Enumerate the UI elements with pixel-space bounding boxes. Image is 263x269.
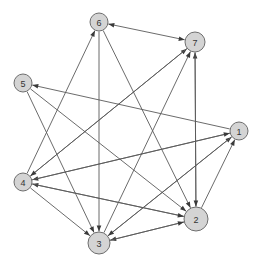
edge-4-to-2 <box>32 184 183 217</box>
arrowhead-to-7 <box>178 36 184 41</box>
edges-layer <box>27 23 235 241</box>
graph-node-1[interactable]: 1 <box>230 122 248 140</box>
edge-line <box>30 89 186 211</box>
arrowhead-to-1 <box>230 140 235 146</box>
edge-4-to-3 <box>30 188 90 236</box>
edge-6-to-2 <box>103 31 190 208</box>
arrowhead-to-2 <box>177 213 183 217</box>
arrowhead-to-2 <box>180 206 186 212</box>
edge-2-to-1 <box>201 140 234 208</box>
node-circle-5[interactable] <box>14 74 32 92</box>
arrowhead-to-7 <box>186 51 191 57</box>
arrowhead-to-6 <box>90 31 95 37</box>
edge-5-to-2 <box>30 89 186 211</box>
arrowhead-to-3 <box>97 226 102 232</box>
node-circle-4[interactable] <box>14 173 32 191</box>
edge-line <box>32 184 183 216</box>
arrowhead-to-2 <box>194 200 199 206</box>
edge-line <box>32 85 229 129</box>
edge-line <box>30 188 90 236</box>
node-circle-6[interactable] <box>90 13 108 31</box>
edge-line <box>32 133 230 180</box>
edge-6-to-7 <box>108 23 184 41</box>
node-circle-1[interactable] <box>230 122 248 140</box>
edge-line <box>103 31 190 208</box>
node-circle-2[interactable] <box>184 207 208 231</box>
edge-line <box>104 51 191 232</box>
arrowhead-to-5 <box>32 84 38 88</box>
arrowhead-to-6 <box>108 23 114 28</box>
graph-node-3[interactable]: 3 <box>88 232 110 254</box>
edge-4-to-1 <box>32 132 230 179</box>
graph-node-4[interactable]: 4 <box>14 173 32 191</box>
edge-4-to-6 <box>27 31 95 174</box>
graph-canvas: 1234567 <box>0 0 263 269</box>
edge-line <box>195 52 196 206</box>
arrowhead-to-2 <box>186 201 191 207</box>
directed-graph-diagram: 1234567 <box>0 0 263 269</box>
edge-6-to-3 <box>97 32 102 232</box>
edge-1-to-5 <box>32 84 229 129</box>
graph-node-5[interactable]: 5 <box>14 74 32 92</box>
graph-node-7[interactable]: 7 <box>185 32 205 52</box>
edge-7-to-4 <box>30 49 186 176</box>
graph-node-2[interactable]: 2 <box>184 207 208 231</box>
node-circle-7[interactable] <box>185 32 205 52</box>
edge-3-to-2 <box>110 221 184 240</box>
arrowhead-to-3 <box>89 226 94 232</box>
edge-3-to-7 <box>104 51 191 232</box>
edge-line <box>108 24 184 40</box>
edge-line <box>201 140 234 208</box>
edge-line <box>27 31 95 174</box>
edge-line <box>30 49 186 176</box>
edge-7-to-2 <box>194 52 199 206</box>
node-circle-3[interactable] <box>88 232 110 254</box>
graph-node-6[interactable]: 6 <box>90 13 108 31</box>
